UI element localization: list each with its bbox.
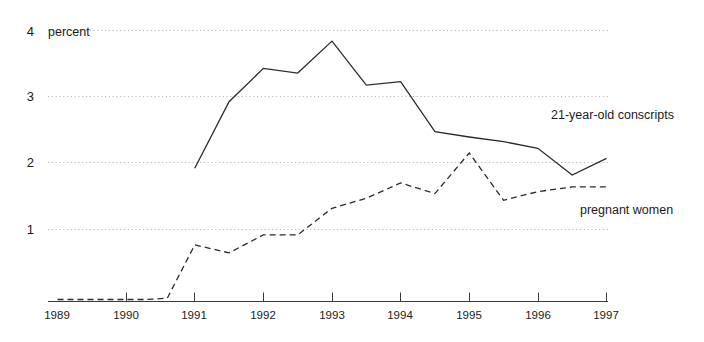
x-tick-label-1995: 1995 [441,310,497,322]
y-tick-label-1: 1 [12,223,34,236]
series-label-conscripts: 21-year-old conscripts [551,109,674,122]
x-tick-label-1992: 1992 [235,310,291,322]
x-tick-label-1994: 1994 [372,310,428,322]
y-tick-label-3: 3 [12,90,34,103]
x-tick-label-1993: 1993 [304,310,360,322]
x-tick-label-1990: 1990 [98,310,154,322]
series-line-pregnant-women [58,153,607,300]
y-axis-unit-label: percent [48,26,90,39]
x-tick-label-1997: 1997 [578,310,634,322]
x-tick-label-1989: 1989 [29,310,85,322]
line-chart: 4 3 2 1 percent 1989 1990 1991 1992 1993… [0,0,704,342]
y-tick-label-2: 2 [12,156,34,169]
series-label-pregnant-women: pregnant women [580,204,673,217]
chart-plot-area [0,0,704,342]
x-tick-label-1996: 1996 [510,310,566,322]
x-tick-label-1991: 1991 [166,310,222,322]
series-line-conscripts [195,41,607,175]
gridlines [48,31,608,230]
y-tick-label-4: 4 [12,25,34,38]
